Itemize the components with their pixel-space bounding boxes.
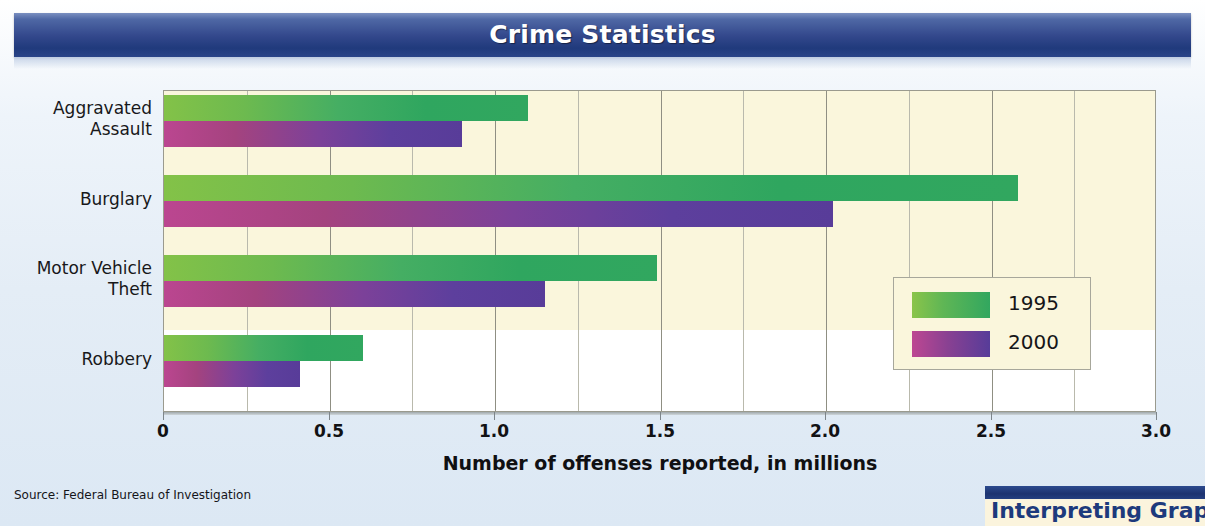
x-axis-tick: [991, 412, 992, 420]
category-axis-labels: AggravatedAssaultBurglaryMotor VehicleTh…: [0, 90, 152, 412]
interpreting-graphs-callout: Interpreting Graphs: [985, 478, 1205, 526]
bar-1995-aggravated-assault: [164, 95, 528, 121]
page-title: Crime Statistics: [14, 20, 1191, 49]
x-axis-tick-label: 1.0: [464, 421, 524, 441]
x-axis-tick-label: 2.0: [795, 421, 855, 441]
x-axis-tick-label: 3.0: [1126, 421, 1186, 441]
x-axis-tick: [329, 412, 330, 420]
category-label-line: Assault: [0, 119, 152, 140]
category-label: Motor VehicleTheft: [0, 258, 152, 300]
category-label: AggravatedAssault: [0, 98, 152, 140]
bar-row: [164, 175, 1157, 201]
x-axis-tick-label: 1.5: [630, 421, 690, 441]
x-axis-title: Number of offenses reported, in millions: [163, 452, 1157, 474]
x-axis-tick-label: 0.5: [299, 421, 359, 441]
x-axis-tick: [163, 412, 164, 420]
source-note: Source: Federal Bureau of Investigation: [14, 488, 251, 502]
legend-label-2000: 2000: [1008, 330, 1059, 354]
chart-legend: 1995 2000: [893, 277, 1091, 370]
plot-area: 1995 2000: [163, 90, 1156, 412]
legend-swatch-2000-icon: [912, 331, 990, 357]
x-axis-tick: [825, 412, 826, 420]
category-label-line: Robbery: [0, 349, 152, 370]
banner-shadow-fade: [14, 57, 1191, 69]
bar-2000-motor-vehicle-theft: [164, 281, 545, 307]
category-label-line: Motor Vehicle: [0, 258, 152, 279]
x-axis-tick: [494, 412, 495, 420]
bar-1995-burglary: [164, 175, 1018, 201]
legend-swatch-1995-icon: [912, 292, 990, 318]
bar-2000-burglary: [164, 201, 833, 227]
bar-1995-motor-vehicle-theft: [164, 255, 657, 281]
bar-row: [164, 201, 1157, 227]
bar-row: [164, 95, 1157, 121]
category-label-line: Burglary: [0, 189, 152, 210]
x-axis-tick-label: 0: [133, 421, 193, 441]
x-axis-tick: [660, 412, 661, 420]
category-label-line: Aggravated: [0, 98, 152, 119]
bar-row: [164, 121, 1157, 147]
category-label: Robbery: [0, 349, 152, 370]
bar-2000-aggravated-assault: [164, 121, 462, 147]
category-label: Burglary: [0, 189, 152, 210]
legend-label-1995: 1995: [1008, 291, 1059, 315]
title-banner: Crime Statistics: [14, 13, 1191, 57]
x-axis-tick-label: 2.5: [961, 421, 1021, 441]
category-label-line: Theft: [0, 279, 152, 300]
x-axis-tick: [1156, 412, 1157, 420]
bar-2000-robbery: [164, 361, 300, 387]
page-canvas: Crime Statistics AggravatedAssaultBurgla…: [0, 0, 1205, 526]
bar-1995-robbery: [164, 335, 363, 361]
callout-title: Interpreting Graphs: [991, 498, 1205, 523]
